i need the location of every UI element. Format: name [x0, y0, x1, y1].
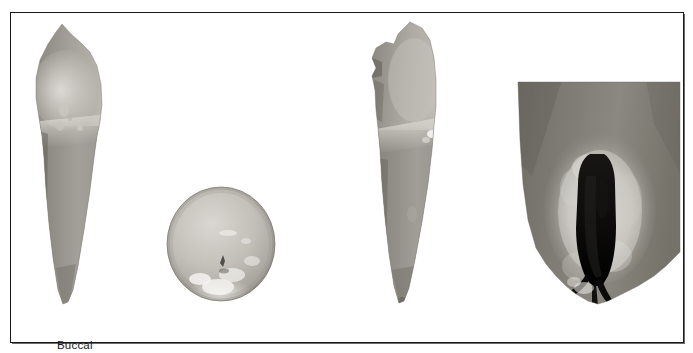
panel-apical-third: Apical 13 of root canal system — [516, 80, 682, 312]
figure-plate: Buccal — [0, 0, 693, 353]
apical-third-cleared-specimen — [516, 80, 682, 312]
panel-distal-view: Distal — [352, 18, 470, 310]
distal-view-tooth — [352, 18, 470, 310]
section-body — [160, 183, 282, 305]
tooth-body — [352, 18, 470, 310]
specular-highlight — [427, 130, 437, 138]
caption-buccal: Buccal — [57, 340, 93, 352]
panel-buccal-view: Buccal — [18, 18, 136, 310]
incisal-cross-section — [160, 183, 282, 305]
panel-cross-section — [160, 183, 282, 305]
buccal-view-tooth — [18, 18, 136, 310]
root-specimen-body — [516, 80, 682, 312]
tooth-body — [18, 18, 136, 310]
